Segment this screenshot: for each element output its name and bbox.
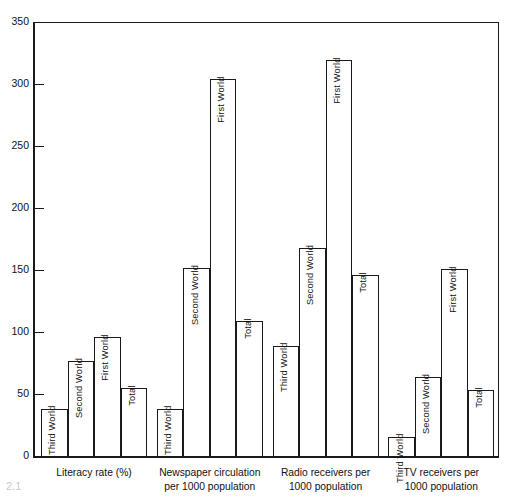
plot-frame-right (498, 22, 499, 458)
y-tick-label-text: 300 (1, 78, 29, 88)
y-tick-mark (35, 146, 44, 147)
y-tick-label-text: 100 (1, 326, 29, 336)
y-tick-label: 0 (0, 450, 29, 460)
bar-label: Second World (191, 265, 200, 325)
y-tick-label-text: 250 (1, 140, 29, 150)
y-tick-mark (35, 84, 44, 85)
y-tick-label-text: 350 (1, 16, 29, 26)
y-tick-label: 350 (0, 16, 29, 26)
y-tick-label: 50 (0, 388, 29, 398)
y-tick-label-text: 50 (1, 388, 29, 398)
bar-label: Total (128, 385, 137, 405)
bar-label: Second World (422, 374, 431, 434)
y-axis (33, 22, 35, 458)
bar-label: Second World (306, 245, 315, 305)
bar-label: First World (333, 58, 342, 104)
y-tick-label-text: 0 (1, 450, 29, 460)
x-axis (33, 456, 499, 458)
bar-label: Third World (48, 405, 57, 455)
y-tick-label: 150 (0, 264, 29, 274)
bar-label: Total (475, 388, 484, 408)
bar-chart: 050100150200250300350 Third WorldSecond … (0, 0, 510, 498)
plot-frame-top (33, 22, 499, 23)
bar-label: Total (359, 272, 368, 292)
bar-label: First World (449, 266, 458, 312)
bar (326, 60, 353, 456)
bar-label: First World (217, 76, 226, 122)
y-tick-mark (35, 394, 44, 395)
y-tick-label-text: 150 (1, 264, 29, 274)
bar-label: Third World (164, 405, 173, 455)
bar (210, 79, 237, 456)
figure-number: 2.1 (6, 480, 21, 492)
y-tick-label: 200 (0, 202, 29, 212)
bar (352, 275, 379, 456)
bar-label: Third World (280, 342, 289, 392)
y-tick-label: 100 (0, 326, 29, 336)
y-tick-label: 300 (0, 78, 29, 88)
x-group-caption: TV receivers per 1000 population (366, 466, 510, 493)
y-tick-label-text: 200 (1, 202, 29, 212)
bar-label: Second World (75, 358, 84, 418)
bar (236, 321, 263, 456)
y-tick-mark (35, 332, 44, 333)
y-tick-mark (35, 208, 44, 209)
y-tick-mark (35, 270, 44, 271)
y-tick-label: 250 (0, 140, 29, 150)
bar-label: First World (101, 334, 110, 380)
bar-label: Total (244, 318, 253, 338)
